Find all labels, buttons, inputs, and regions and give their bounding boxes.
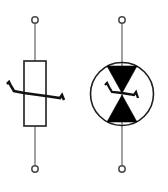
terminal-bottom-right-symbol[interactable] — [119, 166, 125, 172]
schematic-canvas — [0, 0, 168, 192]
terminal-top-left-symbol[interactable] — [32, 17, 38, 23]
diac-triangle-lower-icon — [107, 95, 137, 122]
terminal-bottom-left-symbol[interactable] — [32, 166, 38, 172]
symbol-varistor-diac[interactable] — [91, 17, 154, 172]
varistor-slash-zigzag-icon — [7, 82, 64, 100]
symbol-varistor-rect[interactable] — [7, 17, 64, 172]
terminal-top-right-symbol[interactable] — [119, 17, 125, 23]
schematic-svg — [0, 0, 168, 192]
